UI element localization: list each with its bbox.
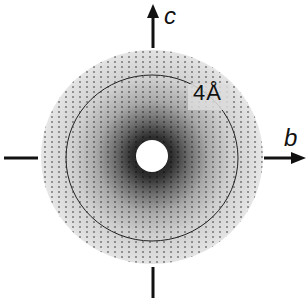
arrowhead-right-icon bbox=[291, 152, 306, 164]
b-axis-label: b bbox=[284, 124, 297, 152]
resolution-ring-label: 4Å bbox=[193, 80, 222, 106]
b-axis-arrow bbox=[264, 152, 306, 164]
beam-stop-hole bbox=[136, 140, 168, 172]
c-axis-label: c bbox=[164, 2, 176, 30]
arrowhead-up-icon bbox=[147, 4, 159, 18]
diffraction-figure: c b 4Å bbox=[0, 0, 306, 303]
c-axis-arrow bbox=[147, 4, 159, 48]
